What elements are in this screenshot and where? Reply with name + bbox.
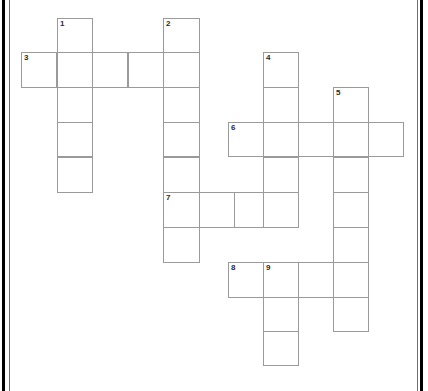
crossword-cell[interactable] (263, 122, 299, 157)
crossword-cell[interactable] (263, 157, 299, 193)
crossword-cell[interactable] (163, 227, 200, 263)
clue-number-8: 8 (231, 263, 235, 273)
clue-number-2: 2 (166, 19, 170, 29)
crossword-cell[interactable] (333, 262, 369, 298)
crossword-cell-numbered-9[interactable]: 9 (263, 262, 299, 298)
clue-number-1: 1 (60, 19, 64, 29)
clue-number-5: 5 (336, 88, 340, 98)
crossword-cell-numbered-2[interactable]: 2 (163, 18, 200, 53)
crossword-cell[interactable] (333, 122, 369, 157)
clue-number-3: 3 (24, 53, 28, 63)
crossword-cell[interactable] (57, 122, 93, 157)
crossword-cell[interactable] (298, 262, 334, 298)
clue-number-6: 6 (231, 123, 235, 133)
crossword-cell[interactable] (298, 122, 334, 157)
crossword-cell[interactable] (57, 157, 93, 193)
crossword-cell-numbered-7[interactable]: 7 (163, 192, 200, 228)
crossword-cell[interactable] (163, 52, 200, 88)
crossword-cell-numbered-3[interactable]: 3 (21, 52, 57, 88)
crossword-cell[interactable] (368, 122, 404, 157)
crossword-cell[interactable] (263, 87, 299, 123)
crossword-cell[interactable] (128, 52, 164, 88)
clue-number-9: 9 (266, 263, 270, 273)
crossword-cell-numbered-8[interactable]: 8 (228, 262, 264, 298)
crossword-grid[interactable]: 123456789 (0, 0, 428, 391)
crossword-cell[interactable] (163, 122, 200, 157)
crossword-cell[interactable] (333, 227, 369, 263)
crossword-cell[interactable] (92, 52, 128, 88)
crossword-cell-numbered-4[interactable]: 4 (263, 52, 299, 88)
crossword-cell[interactable] (263, 297, 299, 332)
crossword-cell[interactable] (163, 87, 200, 123)
crossword-cell[interactable] (333, 157, 369, 193)
crossword-cell-numbered-1[interactable]: 1 (57, 18, 93, 53)
crossword-cell[interactable] (57, 87, 93, 123)
clue-number-4: 4 (266, 53, 270, 63)
crossword-cell[interactable] (199, 192, 235, 228)
crossword-cell-numbered-6[interactable]: 6 (228, 122, 264, 157)
crossword-cell[interactable] (263, 192, 299, 228)
crossword-cell[interactable] (57, 52, 93, 88)
crossword-cell[interactable] (333, 297, 369, 332)
crossword-cell[interactable] (263, 331, 299, 366)
crossword-cell-numbered-5[interactable]: 5 (333, 87, 369, 123)
crossword-page: 123456789 (0, 0, 428, 391)
crossword-cell[interactable] (333, 192, 369, 228)
crossword-cell[interactable] (163, 157, 200, 193)
clue-number-7: 7 (166, 193, 170, 203)
